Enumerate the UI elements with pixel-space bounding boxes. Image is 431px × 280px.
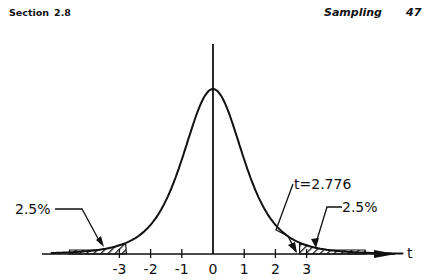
x-tick-labels: -3-2-10123 <box>112 261 311 277</box>
right-tail-label: 2.5% <box>342 199 378 215</box>
x-tick-label: -1 <box>175 261 189 277</box>
x-tick-label: 0 <box>209 261 218 277</box>
x-tick-label: 3 <box>302 261 311 277</box>
critical-arrow-icon <box>288 242 297 253</box>
x-tick-label: -2 <box>144 261 158 277</box>
density-curve <box>51 89 404 254</box>
t-distribution-chart: 2.5% t=2.776 2.5% -3-2-10123 t <box>0 0 431 280</box>
x-tick-label: 2 <box>271 261 280 277</box>
x-tick-label: -3 <box>112 261 126 277</box>
right-leader-line <box>316 207 342 243</box>
x-tick-label: 1 <box>240 261 249 277</box>
critical-leader-line <box>276 184 296 252</box>
critical-value-label: t=2.776 <box>294 176 351 192</box>
x-axis-label: t <box>407 245 413 261</box>
left-tail-label: 2.5% <box>15 201 51 217</box>
left-leader-line <box>55 209 101 244</box>
